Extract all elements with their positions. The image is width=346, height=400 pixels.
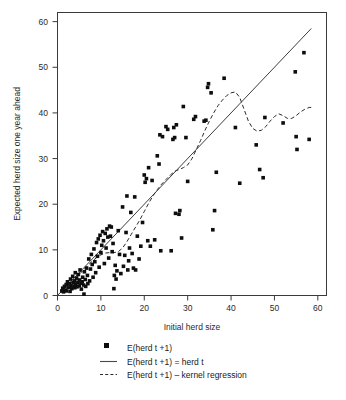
data-point-marker [177, 212, 181, 216]
data-point-marker [129, 211, 133, 215]
y-axis-tick-label: 0 [43, 291, 48, 301]
data-point-marker [302, 51, 306, 55]
data-point-marker [209, 91, 213, 95]
data-point-marker [111, 242, 115, 246]
data-point-marker [137, 257, 141, 261]
data-point-marker [254, 143, 258, 147]
data-point-marker [281, 121, 285, 125]
y-axis-title: Expected herd size one year ahead [12, 87, 22, 221]
data-point-marker [166, 128, 170, 132]
data-point-marker [114, 277, 118, 281]
data-point-marker [110, 250, 114, 254]
data-point-marker [122, 264, 126, 268]
data-point-marker [89, 267, 93, 271]
data-point-marker [139, 244, 143, 248]
data-point-marker [103, 232, 107, 236]
data-point-marker [109, 234, 113, 238]
data-point-marker [85, 266, 89, 270]
data-point-marker [295, 148, 299, 152]
data-point-marker [83, 278, 87, 282]
data-point-marker [294, 135, 298, 139]
data-point-marker [238, 181, 242, 185]
x-axis-tick-label: 60 [313, 303, 323, 313]
x-axis-title: Initial herd size [164, 322, 221, 332]
data-point-marker [215, 170, 219, 174]
data-point-marker [136, 234, 140, 238]
data-point-marker [142, 173, 146, 177]
y-axis-tick-label: 30 [39, 154, 49, 164]
data-point-marker [258, 168, 262, 172]
y-axis-tick-label: 40 [39, 108, 49, 118]
data-point-marker [78, 268, 82, 272]
data-point-marker [145, 177, 149, 181]
data-point-marker [71, 275, 75, 279]
data-point-marker [121, 205, 125, 209]
data-point-marker [124, 231, 128, 235]
data-point-marker [115, 269, 119, 273]
x-axis-tick-label: 40 [226, 303, 236, 313]
data-point-marker [88, 279, 92, 283]
data-point-marker [104, 246, 108, 250]
data-point-marker [97, 265, 101, 269]
chart-canvas: 0102030405060 0102030405060 Initial herd… [0, 0, 346, 400]
data-point-marker [150, 179, 154, 183]
data-point-marker [186, 180, 190, 184]
chart-background [0, 0, 346, 400]
data-point-marker [174, 212, 178, 216]
data-point-marker [222, 76, 226, 80]
data-point-marker [157, 162, 161, 166]
data-point-marker [213, 209, 217, 213]
data-point-marker [116, 229, 120, 233]
data-point-marker [194, 115, 198, 119]
data-point-marker [118, 253, 122, 257]
y-axis-tick-label: 50 [39, 62, 49, 72]
data-point-marker [83, 270, 87, 274]
data-point-marker [90, 253, 94, 257]
data-point-marker [147, 166, 151, 170]
data-point-marker [206, 86, 210, 90]
x-axis-tick-label: 50 [270, 303, 280, 313]
y-axis-tick-label: 60 [39, 17, 49, 27]
data-point-marker [153, 238, 157, 242]
data-point-marker [133, 195, 137, 199]
data-point-marker [261, 176, 265, 180]
data-point-marker [103, 262, 107, 266]
data-point-marker [180, 236, 184, 240]
data-point-marker [112, 287, 116, 291]
data-point-marker [155, 154, 159, 158]
data-point-marker [207, 82, 211, 86]
data-point-marker [159, 249, 163, 253]
y-axis-tick-label: 20 [39, 199, 49, 209]
data-point-marker [96, 254, 100, 258]
data-point-marker [169, 249, 173, 253]
data-point-marker [96, 237, 100, 241]
data-point-marker [65, 289, 69, 293]
data-point-marker [113, 274, 117, 278]
legend-square-marker-icon [104, 343, 109, 348]
legend-label-points: E(herd t +1) [127, 343, 172, 353]
data-point-marker [91, 275, 95, 279]
data-point-marker [82, 292, 86, 296]
data-point-marker [134, 268, 138, 272]
data-point-marker [95, 241, 99, 245]
data-point-marker [293, 70, 297, 74]
data-point-marker [128, 246, 132, 250]
x-axis-tick-label: 20 [140, 303, 150, 313]
data-point-marker [98, 233, 102, 237]
data-point-marker [234, 126, 238, 130]
data-point-marker [113, 264, 117, 268]
data-point-marker [86, 274, 90, 278]
data-point-marker [263, 116, 267, 120]
data-point-marker [93, 260, 97, 264]
data-point-marker [149, 244, 153, 248]
data-point-marker [173, 136, 177, 140]
data-point-marker [307, 138, 311, 142]
data-point-marker [126, 268, 130, 272]
x-axis-tick-label: 30 [183, 303, 193, 313]
data-point-marker [80, 287, 84, 291]
data-point-marker [143, 181, 147, 185]
data-point-marker [107, 256, 111, 260]
data-point-marker [87, 257, 91, 261]
data-point-marker [99, 251, 103, 255]
data-point-marker [161, 135, 165, 139]
